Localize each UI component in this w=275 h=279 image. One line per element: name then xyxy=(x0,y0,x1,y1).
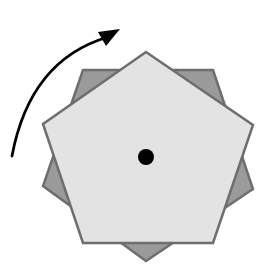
center-point xyxy=(138,149,154,165)
arrowhead-icon xyxy=(98,29,120,46)
pentagon-rotation-diagram xyxy=(0,0,275,279)
original-pentagon xyxy=(43,52,253,243)
